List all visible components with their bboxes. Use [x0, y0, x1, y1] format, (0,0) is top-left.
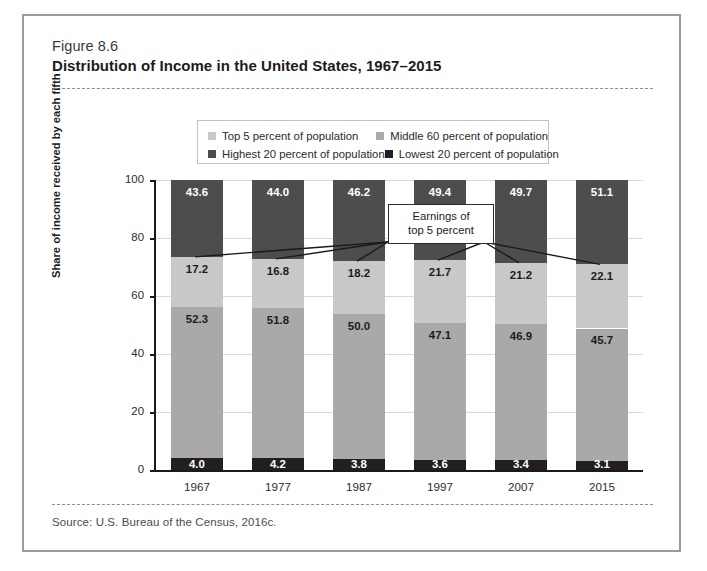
y-tick-mark-20 — [150, 412, 156, 414]
bar-label-highest-20-1977: 44.0 — [252, 186, 304, 198]
x-tick-label-1997: 1997 — [414, 480, 466, 493]
chart-plot-wrapper: Share of income received by each fifth 0… — [52, 174, 653, 499]
bar-label-lowest-20-1987: 3.8 — [333, 458, 385, 470]
bar-segment-middle-60-1997[interactable] — [414, 323, 466, 460]
bar-label-highest-20-1967: 43.6 — [171, 186, 223, 198]
y-tick-label-60: 60 — [100, 289, 144, 301]
gridline-100 — [156, 180, 643, 181]
y-tick-mark-80 — [150, 238, 156, 240]
legend-item-top-5-percent[interactable]: Top 5 percent of population — [208, 130, 376, 142]
legend-swatch-highest-20-percent — [208, 150, 216, 158]
bar-column-2007[interactable]: 3.446.921.249.7 — [495, 180, 547, 470]
bar-label-middle-60-2007: 46.9 — [495, 330, 547, 342]
x-tick-label-2015: 2015 — [576, 480, 628, 493]
bar-label-middle-60-2015: 45.7 — [576, 334, 628, 346]
legend-swatch-lowest-20-percent — [385, 150, 393, 158]
y-tick-mark-40 — [150, 354, 156, 356]
figure-card: Figure 8.6 Distribution of Income in the… — [22, 14, 681, 552]
y-tick-label-20: 20 — [100, 405, 144, 417]
legend-swatch-middle-60-percent — [376, 132, 384, 140]
annotation-line-2: top 5 percent — [393, 224, 489, 238]
bar-label-top-5-2007: 21.2 — [495, 269, 547, 281]
bar-label-highest-20-2015: 51.1 — [576, 186, 628, 198]
bar-label-top-5-2015: 22.1 — [576, 270, 628, 282]
y-axis-title: Share of income received by each fifth — [50, 118, 62, 278]
x-tick-label-1987: 1987 — [333, 480, 385, 493]
annotation-callout: Earnings of top 5 percent — [388, 204, 494, 244]
bar-label-lowest-20-1997: 3.6 — [414, 458, 466, 470]
bar-label-top-5-1997: 21.7 — [414, 266, 466, 278]
x-tick-label-1977: 1977 — [252, 480, 304, 493]
bar-label-lowest-20-1977: 4.2 — [252, 458, 304, 470]
bar-label-highest-20-2007: 49.7 — [495, 186, 547, 198]
bar-label-highest-20-1987: 46.2 — [333, 186, 385, 198]
gridline-20 — [156, 412, 643, 413]
figure-number: Figure 8.6 — [52, 38, 118, 54]
bar-column-1967[interactable]: 4.052.317.243.6 — [171, 180, 223, 470]
gridline-60 — [156, 296, 643, 297]
legend-item-highest-20-percent[interactable]: Highest 20 percent of population — [208, 148, 385, 160]
bar-label-middle-60-1967: 52.3 — [171, 313, 223, 325]
y-tick-mark-100 — [150, 180, 156, 182]
bar-label-top-5-1967: 17.2 — [171, 263, 223, 275]
bar-segment-middle-60-2015[interactable] — [576, 329, 628, 462]
divider-bottom — [52, 504, 653, 505]
bar-segment-middle-60-1987[interactable] — [333, 314, 385, 459]
bar-segment-middle-60-1967[interactable] — [171, 307, 223, 459]
figure-title: Distribution of Income in the United Sta… — [52, 57, 441, 74]
legend-label-top-5-percent: Top 5 percent of population — [222, 130, 358, 142]
bar-label-lowest-20-2015: 3.1 — [576, 458, 628, 470]
legend-label-highest-20-percent: Highest 20 percent of population — [222, 148, 385, 160]
gridline-40 — [156, 354, 643, 355]
bar-label-lowest-20-2007: 3.4 — [495, 458, 547, 470]
x-tick-label-2007: 2007 — [495, 480, 547, 493]
bar-label-middle-60-1997: 47.1 — [414, 329, 466, 341]
y-tick-mark-60 — [150, 296, 156, 298]
legend-label-lowest-20-percent: Lowest 20 percent of population — [399, 148, 559, 160]
bar-label-top-5-1977: 16.8 — [252, 265, 304, 277]
y-tick-mark-0 — [150, 470, 156, 472]
legend-label-middle-60-percent: Middle 60 percent of population — [390, 130, 548, 142]
bar-column-1987[interactable]: 3.850.018.246.2 — [333, 180, 385, 470]
legend-item-lowest-20-percent[interactable]: Lowest 20 percent of population — [385, 148, 559, 160]
bar-label-lowest-20-1967: 4.0 — [171, 458, 223, 470]
bar-column-1977[interactable]: 4.251.816.844.0 — [252, 180, 304, 470]
y-tick-label-100: 100 — [100, 173, 144, 185]
bar-segment-middle-60-2007[interactable] — [495, 324, 547, 460]
source-note: Source: U.S. Bureau of the Census, 2016c… — [52, 516, 277, 528]
legend-row-1: Top 5 percent of population Middle 60 pe… — [208, 127, 548, 145]
bar-label-top-5-1987: 18.2 — [333, 267, 385, 279]
divider-top — [52, 88, 653, 89]
legend-item-middle-60-percent[interactable]: Middle 60 percent of population — [376, 130, 548, 142]
x-tick-label-1967: 1967 — [171, 480, 223, 493]
bar-segment-middle-60-1977[interactable] — [252, 308, 304, 458]
bar-column-2015[interactable]: 3.145.722.151.1 — [576, 180, 628, 470]
chart-legend: Top 5 percent of population Middle 60 pe… — [197, 120, 549, 164]
bar-label-middle-60-1987: 50.0 — [333, 320, 385, 332]
bar-label-highest-20-1997: 49.4 — [414, 186, 466, 198]
y-tick-label-80: 80 — [100, 231, 144, 243]
annotation-line-1: Earnings of — [393, 210, 489, 224]
y-tick-label-0: 0 — [100, 463, 144, 475]
bar-label-middle-60-1977: 51.8 — [252, 314, 304, 326]
y-tick-label-40: 40 — [100, 347, 144, 359]
legend-swatch-top-5-percent — [208, 132, 216, 140]
legend-row-2: Highest 20 percent of population Lowest … — [208, 145, 548, 163]
